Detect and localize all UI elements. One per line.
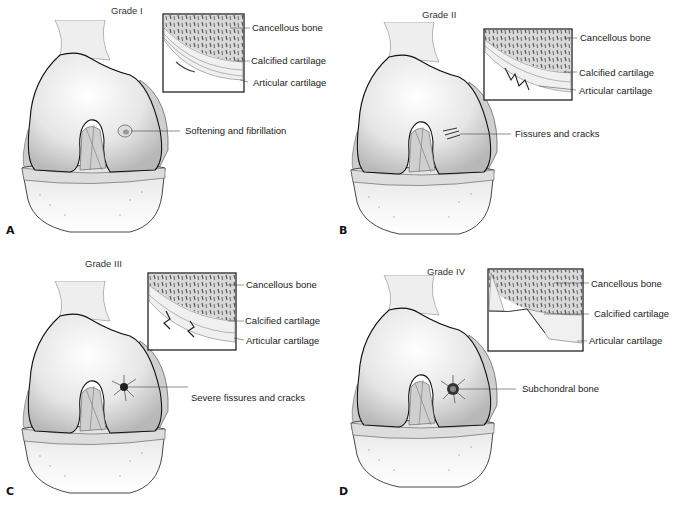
label-articular-cartilage: Articular cartilage [579,86,652,96]
inset-cartilage-grade-4 [488,269,589,351]
label-lesion: Softening and fibrillation [185,126,286,136]
label-calcified-cartilage: Calcified cartilage [251,56,326,66]
label-articular-cartilage: Articular cartilage [589,336,662,346]
label-cancellous-bone: Cancellous bone [252,23,323,33]
grade-title: Grade III [85,259,122,269]
inset-cartilage-grade-3 [148,273,244,350]
knee-illustration-grade-1 [0,0,339,253]
label-articular-cartilage: Articular cartilage [253,78,326,88]
label-calcified-cartilage: Calcified cartilage [245,316,320,326]
label-calcified-cartilage: Calcified cartilage [579,68,654,78]
label-cancellous-bone: Cancellous bone [246,280,317,290]
grade-title: Grade IV [427,267,465,277]
inset-cartilage-grade-2 [484,29,577,100]
label-lesion: Severe fissures and cracks [191,393,305,403]
panel-letter: A [6,224,15,237]
label-cancellous-bone: Cancellous bone [580,33,651,43]
label-calcified-cartilage: Calcified cartilage [594,309,669,319]
panel-letter: C [6,485,14,498]
panel-letter: D [339,485,348,498]
panel-grade-4: Grade IV Cancellous bone Calcified carti… [339,253,678,506]
label-cancellous-bone: Cancellous bone [591,279,662,289]
label-lesion: Subchondral bone [522,384,599,394]
grade-title: Grade II [422,10,456,20]
lesion-softening [118,125,132,137]
panel-grade-2: Grade II Cancellous bone Calcified carti… [339,0,678,253]
grade-title: Grade I [111,6,143,16]
panel-letter: B [339,224,347,237]
label-articular-cartilage: Articular cartilage [246,336,319,346]
knee-illustration-grade-3 [0,253,339,506]
panel-grade-1: Grade I Cancellous bone Calcified cartil… [0,0,339,253]
knee-illustration-grade-4 [339,253,678,506]
panel-grade-3: Grade III Cancellous bone Calcified cart… [0,253,339,506]
inset-cartilage-grade-1 [163,14,250,92]
label-lesion: Fissures and cracks [515,129,599,139]
